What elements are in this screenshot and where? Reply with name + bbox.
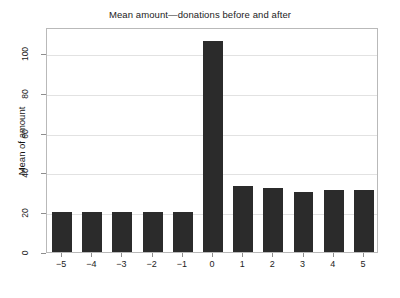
x-axis-tick-mark <box>363 253 364 257</box>
bar <box>233 186 253 252</box>
y-axis-tick-label-text: 60 <box>20 129 30 138</box>
y-axis-title: Mean of amount <box>14 28 28 253</box>
x-axis-tick-label: −2 <box>137 259 167 269</box>
x-axis-tick-mark <box>152 253 153 257</box>
bar <box>263 188 283 252</box>
x-axis-tick-mark <box>272 253 273 257</box>
x-axis-tick-label: 3 <box>288 259 318 269</box>
y-axis-tick-label-text: 100 <box>20 47 30 61</box>
y-axis-tick-label-text: 0 <box>20 251 30 256</box>
x-axis-tick-label: −1 <box>167 259 197 269</box>
bar <box>143 212 163 252</box>
y-axis-tick-label: 60 <box>10 128 40 140</box>
y-axis-tick-label: 100 <box>10 48 40 60</box>
y-axis-tick-mark <box>41 253 46 254</box>
y-axis-tick-label-text: 20 <box>20 208 30 217</box>
x-axis-tick-label: −4 <box>76 259 106 269</box>
x-axis-tick-mark <box>303 253 304 257</box>
bar <box>112 212 132 252</box>
plot-area <box>46 28 378 253</box>
x-axis-tick-label: 5 <box>348 259 378 269</box>
y-axis-tick-label-text: 40 <box>20 169 30 178</box>
y-axis-tick-label: 20 <box>10 207 40 219</box>
x-axis-tick-mark <box>91 253 92 257</box>
y-axis-title-text: Mean of amount <box>16 106 27 175</box>
x-axis-tick-label: 1 <box>227 259 257 269</box>
x-axis-tick-mark <box>182 253 183 257</box>
bar <box>173 212 193 252</box>
bar <box>324 190 344 252</box>
y-axis-tick-label-text: 80 <box>20 89 30 98</box>
bar <box>82 212 102 252</box>
chart-figure: Mean amount—donations before and after M… <box>0 0 400 298</box>
bar <box>354 190 374 252</box>
bar <box>294 192 314 252</box>
x-axis-tick-label: 4 <box>318 259 348 269</box>
chart-title: Mean amount—donations before and after <box>0 9 400 20</box>
x-axis-tick-mark <box>242 253 243 257</box>
y-axis-tick-label: 80 <box>10 88 40 100</box>
x-axis-tick-label: −3 <box>106 259 136 269</box>
y-axis-tick-label: 40 <box>10 167 40 179</box>
x-axis-tick-label: 0 <box>197 259 227 269</box>
x-axis-tick-label: 2 <box>257 259 287 269</box>
x-axis-tick-mark <box>333 253 334 257</box>
bar <box>203 41 223 252</box>
x-axis-tick-mark <box>121 253 122 257</box>
x-axis-tick-mark <box>61 253 62 257</box>
x-axis-tick-label: −5 <box>46 259 76 269</box>
bar <box>52 212 72 252</box>
y-axis-tick-label: 0 <box>10 247 40 259</box>
x-axis-tick-mark <box>212 253 213 257</box>
